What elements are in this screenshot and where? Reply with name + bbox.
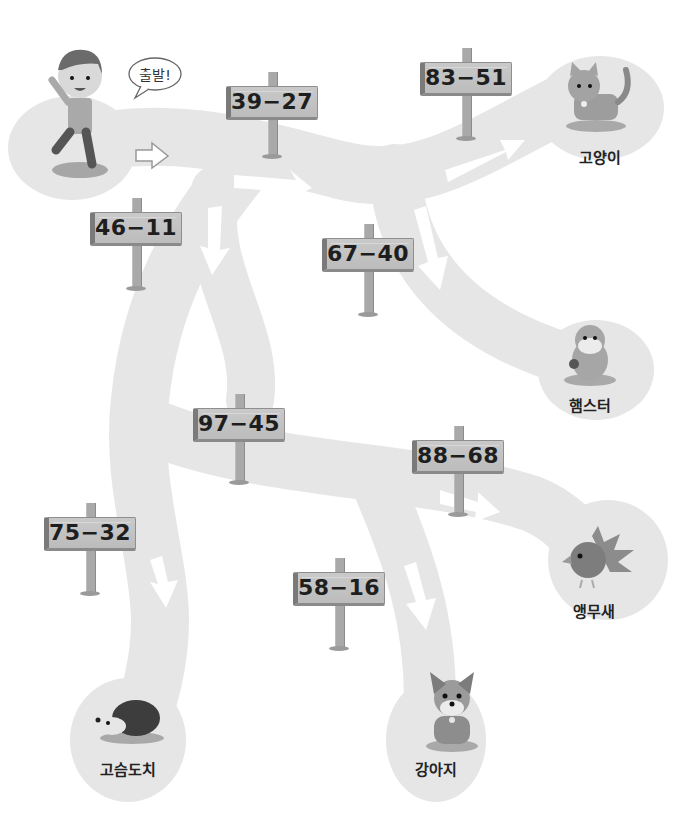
destination-label-hedgehog: 고슴도치 xyxy=(88,758,168,779)
sign-expression: 58−16 xyxy=(293,575,385,600)
parrot-icon xyxy=(562,526,638,592)
puppy-icon xyxy=(422,672,482,752)
signpost: 39−27 xyxy=(226,86,318,120)
signpost: 58−16 xyxy=(293,572,385,606)
arrow-icon xyxy=(200,484,262,512)
cat-icon xyxy=(560,62,640,134)
sign-expression: 67−40 xyxy=(322,241,414,266)
signpost: 46−11 xyxy=(90,212,182,246)
sign-expression: 75−32 xyxy=(44,520,136,545)
speech-bubble: 출발! xyxy=(125,56,175,92)
signpost: 75−32 xyxy=(44,517,136,551)
speech-text: 출발! xyxy=(125,64,185,84)
sign-expression: 88−68 xyxy=(412,443,504,468)
maze-worksheet: 출발! 39−27 83−51 46−11 67−40 97−45 88−68 … xyxy=(0,0,677,818)
destination-label-puppy: 강아지 xyxy=(396,758,476,779)
sign-expression: 97−45 xyxy=(193,411,285,436)
signpost: 88−68 xyxy=(412,440,504,474)
signpost: 97−45 xyxy=(193,408,285,442)
signpost: 67−40 xyxy=(322,238,414,272)
signpost: 83−51 xyxy=(420,62,512,96)
sign-expression: 83−51 xyxy=(420,65,512,90)
sign-expression: 46−11 xyxy=(90,215,182,240)
destination-label-parrot: 앵무새 xyxy=(554,600,634,621)
boy-character xyxy=(40,40,120,180)
destination-label-hamster: 햄스터 xyxy=(550,394,630,415)
destination-label-cat: 고양이 xyxy=(560,146,640,167)
hamster-icon xyxy=(560,320,620,386)
sign-expression: 39−27 xyxy=(226,89,318,114)
hedgehog-icon xyxy=(94,696,166,744)
